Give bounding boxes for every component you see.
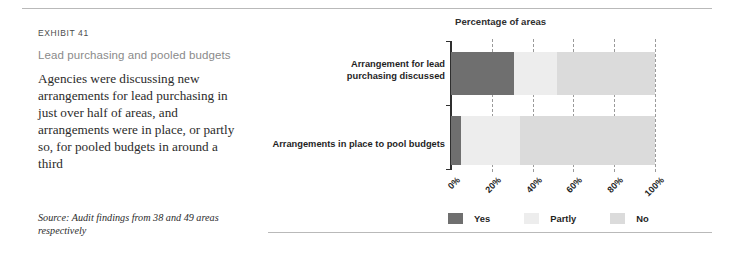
legend-item-yes: Yes [448,213,490,224]
legend-swatch-partly [524,213,539,224]
axis-tick-middle [446,105,451,106]
gridline-100 [655,39,656,172]
x-tick-0: 0% [437,175,462,200]
legend-label-yes: Yes [474,213,490,224]
bar-segment-partly [514,52,557,95]
axis-tick-bottom [446,169,451,170]
bar-row [451,116,655,165]
chart-title: Percentage of areas [455,16,546,27]
bar-row [451,52,655,95]
legend-item-partly: Partly [524,213,576,224]
bar-segment-partly [461,116,520,165]
legend-item-no: No [610,213,649,224]
legend-swatch-no [610,213,625,224]
legend-label-partly: Partly [550,213,576,224]
x-tick-40: 40% [518,175,543,200]
legend-label-no: No [636,213,649,224]
x-tick-80: 80% [600,175,625,200]
bar-segment-yes [451,52,514,95]
chart-area: Percentage of areas Arrangement for lead… [0,0,733,253]
bar-segment-no [557,52,655,95]
chart-legend: YesPartlyNo [448,213,683,224]
bar-segment-yes [451,116,461,165]
category-label-pool-budgets: Arrangements in place to pool budgets [265,139,445,151]
x-tick-60: 60% [559,175,584,200]
plot-region: 0%20%40%60%80%100% [451,41,655,170]
axis-tick-top [446,41,451,42]
bar-segment-no [520,116,655,165]
category-label-lead-purchasing: Arrangement for lead purchasing discusse… [265,59,445,82]
x-tick-100: 100% [641,175,666,200]
x-tick-20: 20% [477,175,502,200]
legend-swatch-yes [448,213,463,224]
